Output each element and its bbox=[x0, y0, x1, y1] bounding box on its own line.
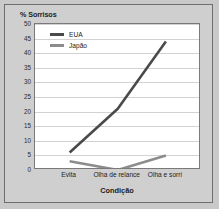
x-axis-tick-label: Evita bbox=[61, 171, 76, 178]
series-line bbox=[70, 42, 166, 153]
x-axis-tick-label: Olha e sorri bbox=[148, 171, 182, 178]
y-axis-tick-label: 30 bbox=[24, 78, 31, 85]
legend-swatch-icon bbox=[50, 44, 64, 47]
y-axis-tick-label: 25 bbox=[24, 93, 31, 100]
y-axis-tick-label: 0 bbox=[27, 166, 31, 173]
chart-legend: EUAJapão bbox=[50, 29, 87, 51]
chart-figure: % Sorrisos 05101520253035404550 EvitaOlh… bbox=[4, 4, 213, 203]
legend-swatch-icon bbox=[50, 33, 64, 36]
legend-label: Japão bbox=[69, 42, 87, 49]
y-axis-tick-label: 40 bbox=[24, 49, 31, 56]
series-line bbox=[70, 155, 166, 169]
y-axis-tick-label: 45 bbox=[24, 34, 31, 41]
y-axis-title: % Sorrisos bbox=[20, 10, 57, 19]
x-axis-tick-label: Olha de relance bbox=[93, 171, 140, 178]
x-axis-title: Condição bbox=[34, 186, 200, 195]
legend-item: EUA bbox=[50, 29, 87, 40]
y-axis-tick-label: 5 bbox=[27, 151, 31, 158]
y-axis-tick-label: 20 bbox=[24, 107, 31, 114]
legend-item: Japão bbox=[50, 40, 87, 51]
legend-label: EUA bbox=[69, 31, 83, 38]
y-axis-tick-label: 15 bbox=[24, 122, 31, 129]
y-axis-tick-label: 35 bbox=[24, 63, 31, 70]
y-axis-tick-label: 10 bbox=[24, 136, 31, 143]
plot-area-wrapper: 05101520253035404550 EvitaOlha de relanc… bbox=[34, 23, 200, 169]
y-axis-tick-label: 50 bbox=[24, 20, 31, 27]
